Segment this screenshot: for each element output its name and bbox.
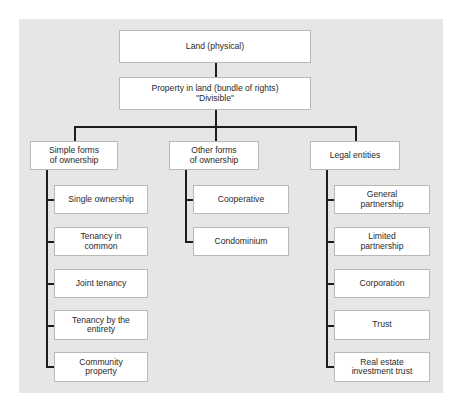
- node-corporation: Corporation: [334, 269, 430, 298]
- connector-other-tick-1: [185, 199, 193, 201]
- node-legal-entities: Legal entities: [310, 141, 400, 170]
- node-real-estate-investment-trust: Real estate investment trust: [334, 352, 430, 382]
- connector-other-spine: [185, 170, 187, 242]
- connector-legal-tick-3: [326, 283, 334, 285]
- node-cooperative: Cooperative: [193, 185, 289, 214]
- node-condominium: Condominium: [193, 227, 289, 256]
- node-joint-tenancy: Joint tenancy: [54, 269, 148, 298]
- connector-legal-tick-2: [326, 241, 334, 243]
- connector-legal-tick-1: [326, 199, 334, 201]
- connector-right-drop: [355, 126, 357, 141]
- connector-simple-tick-4: [46, 325, 54, 327]
- connector-legal-tick-4: [326, 325, 334, 327]
- connector-other-tick-2: [185, 241, 193, 243]
- node-community-property: Community property: [54, 352, 148, 382]
- connector-simple-tick-2: [46, 241, 54, 243]
- node-property-in-land: Property in land (bundle of rights) "Div…: [119, 77, 311, 110]
- node-simple-forms: Simple forms of ownership: [30, 141, 118, 170]
- connector-simple-tick-1: [46, 199, 54, 201]
- connector-legal-tick-5: [326, 366, 334, 368]
- node-tenancy-in-common: Tenancy in common: [54, 227, 148, 256]
- connector-simple-tick-5: [46, 366, 54, 368]
- node-tenancy-by-entirety: Tenancy by the entirety: [54, 310, 148, 340]
- node-trust: Trust: [334, 310, 430, 340]
- connector-left-drop: [74, 126, 76, 141]
- node-land-physical: Land (physical): [119, 30, 311, 63]
- connector-simple-tick-3: [46, 283, 54, 285]
- node-limited-partnership: Limited partnership: [334, 227, 430, 256]
- node-single-ownership: Single ownership: [54, 185, 148, 214]
- node-other-forms: Other forms of ownership: [169, 141, 259, 170]
- node-general-partnership: General partnership: [334, 185, 430, 214]
- connector-horizontal-bar: [74, 126, 356, 128]
- connector-root-property: [215, 63, 217, 77]
